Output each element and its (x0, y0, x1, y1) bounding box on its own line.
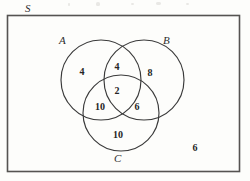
region-count-a-only: 4 (80, 67, 85, 77)
set-label-s: S (25, 3, 31, 14)
set-circle-b (104, 40, 184, 120)
set-label-b: B (163, 35, 170, 46)
region-count-ac-only: 10 (95, 102, 105, 112)
region-count-bc-only: 6 (135, 102, 140, 112)
region-count-b-only: 8 (148, 68, 153, 78)
region-count-c-only: 10 (113, 130, 123, 140)
venn-diagram-figure: S A B C 4 4 8 2 10 6 10 6 (0, 0, 250, 181)
region-count-ab-only: 4 (115, 62, 120, 72)
universal-set-rectangle (8, 16, 240, 172)
set-label-a: A (59, 35, 66, 46)
set-label-c: C (114, 153, 121, 164)
region-count-outside: 6 (193, 143, 198, 153)
region-count-abc: 2 (115, 86, 120, 96)
venn-diagram-canvas (0, 0, 250, 181)
